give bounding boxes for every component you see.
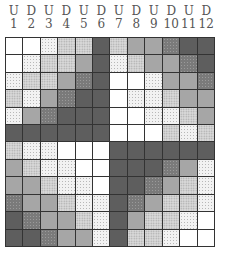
grid-cell xyxy=(180,38,196,54)
grid-cell xyxy=(6,230,22,246)
grid-cell xyxy=(23,177,39,193)
grid-cell xyxy=(76,212,92,228)
grid-cell xyxy=(41,212,57,228)
column-header: U9 xyxy=(145,5,163,31)
grid-cell xyxy=(58,177,74,193)
grid-cell xyxy=(110,90,126,106)
grid-cell xyxy=(128,230,144,246)
grid-cell xyxy=(6,195,22,211)
grid-cell xyxy=(6,55,22,71)
grid-cell xyxy=(163,125,179,141)
grid-cell xyxy=(198,55,214,71)
grid-cell xyxy=(93,230,109,246)
grid-cell xyxy=(6,108,22,124)
grid-cell xyxy=(128,160,144,176)
grid-cell xyxy=(145,90,161,106)
column-header: D2 xyxy=(23,5,41,31)
grid-cell xyxy=(198,125,214,141)
grid-cell xyxy=(163,177,179,193)
grid-cell xyxy=(58,230,74,246)
grid-cell xyxy=(110,212,126,228)
grid-cell xyxy=(76,38,92,54)
grid-cell xyxy=(163,160,179,176)
grid-cell xyxy=(145,108,161,124)
grid-cell xyxy=(76,73,92,89)
grid-cell xyxy=(180,230,196,246)
column-number-label: 8 xyxy=(128,18,146,31)
grid-cell xyxy=(198,73,214,89)
column-number-label: 9 xyxy=(145,18,163,31)
grid-cell xyxy=(110,108,126,124)
grid-cell xyxy=(41,160,57,176)
grid-cell xyxy=(41,230,57,246)
grid-cell xyxy=(128,55,144,71)
grid-cell xyxy=(58,55,74,71)
grid-cell xyxy=(110,125,126,141)
column-header: D6 xyxy=(93,5,111,31)
grid-cell xyxy=(110,160,126,176)
grid-cell xyxy=(198,177,214,193)
grid-cell xyxy=(145,230,161,246)
grid-cell xyxy=(145,55,161,71)
grid-cell xyxy=(145,177,161,193)
grid-cell xyxy=(198,212,214,228)
grid-cell xyxy=(145,125,161,141)
grid-cell xyxy=(93,160,109,176)
grid-cell xyxy=(76,108,92,124)
column-number-label: 11 xyxy=(180,18,198,31)
column-headers: U1D2U3D4U5D6U7D8U9D10U11D12 xyxy=(5,5,215,31)
column-number-label: 2 xyxy=(23,18,41,31)
grid-cell xyxy=(6,125,22,141)
grid-cell xyxy=(41,90,57,106)
grid-cell xyxy=(76,160,92,176)
grid-cell xyxy=(93,55,109,71)
column-number-label: 6 xyxy=(93,18,111,31)
grid-cell xyxy=(58,195,74,211)
grid-cell xyxy=(6,212,22,228)
grid-cell xyxy=(93,108,109,124)
grid-cell xyxy=(41,73,57,89)
grid-cell xyxy=(110,230,126,246)
column-header: U3 xyxy=(40,5,58,31)
grid-cell xyxy=(145,212,161,228)
grid-cell xyxy=(58,38,74,54)
grid-cell xyxy=(145,142,161,158)
grid-cell xyxy=(180,195,196,211)
grid-cell xyxy=(163,230,179,246)
column-header: U1 xyxy=(5,5,23,31)
grid-cell xyxy=(93,125,109,141)
grid-cell xyxy=(76,125,92,141)
column-number-label: 3 xyxy=(40,18,58,31)
column-header: D4 xyxy=(58,5,76,31)
grid-cell xyxy=(180,160,196,176)
grid-cell xyxy=(58,160,74,176)
column-number-label: 12 xyxy=(198,18,216,31)
grid-cell xyxy=(180,55,196,71)
grid-cell xyxy=(6,38,22,54)
column-header: D8 xyxy=(128,5,146,31)
grid-cell xyxy=(41,177,57,193)
grid-cell xyxy=(145,160,161,176)
grid-cell xyxy=(198,108,214,124)
grid-cell xyxy=(23,38,39,54)
grid-cell xyxy=(163,212,179,228)
grid-cell xyxy=(180,177,196,193)
grid-cell xyxy=(6,177,22,193)
grid-cell xyxy=(58,142,74,158)
grid-cell xyxy=(180,125,196,141)
grid-cell xyxy=(128,73,144,89)
grid-cell xyxy=(163,55,179,71)
column-number-label: 1 xyxy=(5,18,23,31)
grid-cell xyxy=(128,177,144,193)
grid-cell xyxy=(23,160,39,176)
grid-cell xyxy=(145,195,161,211)
grid-cell xyxy=(110,177,126,193)
grid-cell xyxy=(76,177,92,193)
grid-cell xyxy=(76,55,92,71)
grid-cell xyxy=(180,90,196,106)
grid-cell xyxy=(93,90,109,106)
grid-cell xyxy=(93,142,109,158)
grid-cell xyxy=(198,230,214,246)
column-header: U11 xyxy=(180,5,198,31)
grid-cell xyxy=(163,73,179,89)
